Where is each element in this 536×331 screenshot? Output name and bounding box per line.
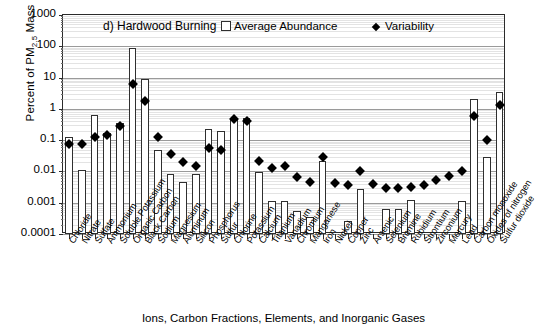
plot-inner <box>63 15 504 232</box>
y-axis-tick <box>59 234 63 235</box>
y-axis-tick-minor <box>61 99 64 100</box>
y-axis-tick-minor <box>61 22 64 23</box>
y-axis-tick-minor <box>61 215 64 216</box>
y-axis-label: 0.01 <box>8 164 56 174</box>
y-axis-tick-minor <box>61 212 64 213</box>
y-axis-label: 100 <box>8 39 56 49</box>
y-axis-tick-minor <box>61 125 64 126</box>
y-axis-tick-minor <box>61 188 64 189</box>
y-axis-label: 0.0001 <box>8 227 56 237</box>
y-axis-tick-minor <box>61 51 64 52</box>
y-axis-tick-minor <box>61 142 64 143</box>
y-axis-label: 1 <box>8 102 56 112</box>
y-axis-tick-minor <box>61 175 64 176</box>
legend-average-abundance: Average Abundance <box>221 20 337 32</box>
y-axis-tick-minor <box>61 87 64 88</box>
y-axis-tick-minor <box>61 27 64 28</box>
y-axis-tick-minor <box>61 173 64 174</box>
y-axis-tick-minor <box>61 112 64 113</box>
legend-label-average-abundance: Average Abundance <box>234 20 337 32</box>
y-axis-tick-minor <box>61 145 64 146</box>
y-axis-label: 0.001 <box>8 196 56 206</box>
y-axis-tick-minor <box>61 56 64 57</box>
y-axis-tick-minor <box>61 184 64 185</box>
legend-variability: Variability <box>373 20 434 32</box>
marker-aluminum <box>178 157 188 167</box>
y-axis-tick-minor <box>61 31 64 32</box>
y-axis-tick-minor <box>61 82 64 83</box>
y-axis-tick-minor <box>61 208 64 209</box>
y-axis-tick-minor <box>61 63 64 64</box>
y-axis-tick-minor <box>61 157 64 158</box>
y-axis-tick-minor <box>61 85 64 86</box>
y-axis-tick-minor <box>61 150 64 151</box>
y-axis-tick-minor <box>61 143 64 144</box>
y-axis-tick-minor <box>61 193 64 194</box>
y-axis-tick-minor <box>61 116 64 117</box>
y-axis-tick-minor <box>61 37 64 38</box>
y-axis-tick-minor <box>61 131 64 132</box>
y-axis-tick-minor <box>61 18 64 19</box>
x-axis-title: Ions, Carbon Fractions, Elements, and In… <box>62 312 505 324</box>
y-axis-tick-minor <box>61 178 64 179</box>
y-axis-tick-minor <box>61 79 64 80</box>
y-axis-tick-minor <box>61 90 64 91</box>
y-axis-tick-minor <box>61 219 64 220</box>
y-axis-tick-minor <box>61 49 64 50</box>
y-axis-tick-minor <box>61 206 64 207</box>
y-axis-tick-minor <box>61 114 64 115</box>
gridline-minor <box>63 37 504 38</box>
y-axis-tick-minor <box>61 118 64 119</box>
y-axis-label: 1000 <box>8 8 56 18</box>
y-axis-tick-minor <box>61 110 64 111</box>
y-axis-tick-minor <box>61 162 64 163</box>
y-axis-tick-minor <box>61 59 64 60</box>
y-axis-tick-minor <box>61 225 64 226</box>
y-axis-tick-minor <box>61 53 64 54</box>
y-axis-tick-minor <box>61 94 64 95</box>
y-axis-tick-minor <box>61 81 64 82</box>
y-axis-label: 10 <box>8 71 56 81</box>
gridline-minor <box>63 16 504 17</box>
y-axis-tick-minor <box>61 16 64 17</box>
plot-area: d) Hardwood Burning Average Abundance Va… <box>62 14 505 233</box>
legend-diamond-icon <box>372 23 380 31</box>
y-axis-tick-minor <box>61 181 64 182</box>
y-axis-tick-minor <box>61 210 64 211</box>
legend-square-icon <box>221 21 231 31</box>
y-axis-tick-minor <box>61 24 64 25</box>
y-axis-label: 0.1 <box>8 133 56 143</box>
legend-label-variability: Variability <box>385 20 434 32</box>
marker-magnesium <box>166 149 176 159</box>
panel-label: d) Hardwood Burning <box>103 19 216 33</box>
bar-chloride <box>65 137 73 234</box>
y-axis-tick-minor <box>61 204 64 205</box>
y-axis-tick-minor <box>61 20 64 21</box>
y-axis-tick-minor <box>61 147 64 148</box>
y-axis-tick-minor <box>61 121 64 122</box>
marker-nickel <box>330 178 340 188</box>
y-axis-tick-minor <box>61 176 64 177</box>
y-axis-tick-minor <box>61 68 64 69</box>
y-axis-tick-minor <box>61 48 64 49</box>
y-axis-tick-minor <box>61 153 64 154</box>
